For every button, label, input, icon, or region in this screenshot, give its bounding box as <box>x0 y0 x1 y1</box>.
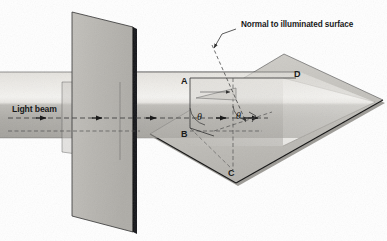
diagram-canvas: Normal to illuminated surface Light beam… <box>0 0 387 241</box>
figure-light-beam-illumination: Normal to illuminated surface Light beam… <box>0 0 387 241</box>
paper-grain <box>0 0 387 241</box>
